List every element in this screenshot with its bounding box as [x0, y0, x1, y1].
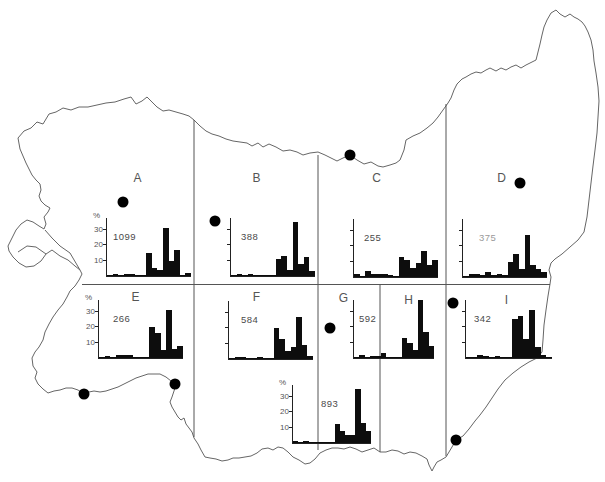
site-dot: [515, 178, 526, 189]
site-dot: [345, 150, 356, 161]
y-axis-tick: [289, 427, 293, 428]
y-axis-tick: [459, 245, 463, 246]
histogram-C: 255: [353, 219, 438, 278]
y-axis-tick: [227, 260, 231, 261]
y-axis-tick: [459, 230, 463, 231]
y-axis-tick-label: 30: [80, 307, 95, 316]
y-axis-tick: [289, 396, 293, 397]
histogram-bars: [229, 301, 313, 359]
histogram-bars: [293, 385, 371, 443]
y-axis-tick: [95, 326, 99, 327]
histogram-bar: [432, 260, 438, 277]
histogram-bar: [307, 356, 313, 359]
histogram-bar: [546, 357, 552, 358]
histogram-bar: [174, 250, 180, 276]
y-axis-tick-label: 10: [274, 423, 289, 432]
histogram-G: 102030%893: [292, 385, 371, 444]
region-label-C: C: [372, 171, 382, 185]
region-label-A: A: [133, 171, 142, 185]
site-dot: [118, 197, 129, 208]
y-axis-tick-label: 10: [80, 338, 95, 347]
histogram-D: 375: [462, 219, 547, 278]
region-label-D: D: [497, 171, 507, 185]
sample-count: 388: [241, 231, 258, 242]
histogram-bar: [185, 273, 191, 276]
y-axis-tick: [227, 229, 231, 230]
site-dot: [170, 379, 181, 390]
histogram-B: 388: [230, 218, 315, 277]
sample-count: 592: [359, 313, 376, 324]
y-axis-tick: [462, 311, 466, 312]
y-axis-tick: [459, 261, 463, 262]
y-axis-tick-label: 20: [88, 240, 103, 249]
region-label-B: B: [252, 171, 261, 185]
y-axis-tick: [350, 245, 354, 246]
histogram-bars: [231, 218, 315, 276]
y-axis-percent-label: %: [85, 293, 92, 302]
y-axis-tick: [289, 411, 293, 412]
histogram-bar: [309, 271, 315, 276]
y-axis-tick: [350, 261, 354, 262]
y-axis-tick-label: 30: [274, 392, 289, 401]
sample-count: 342: [474, 313, 491, 324]
y-axis-tick: [350, 342, 354, 343]
y-axis-tick: [103, 260, 107, 261]
y-axis-tick-label: 30: [88, 225, 103, 234]
histogram-A: 102030%1099: [106, 218, 191, 277]
site-dot: [325, 323, 336, 334]
y-axis-tick-label: 20: [80, 322, 95, 331]
y-axis-tick: [225, 327, 229, 328]
sample-count: 255: [364, 232, 381, 243]
y-axis-tick: [227, 244, 231, 245]
sample-count: 375: [479, 232, 496, 243]
y-axis-tick: [350, 230, 354, 231]
histogram-bars: [354, 219, 438, 277]
y-axis-tick: [95, 311, 99, 312]
y-axis-tick-label: 20: [274, 407, 289, 416]
y-axis-percent-label: %: [279, 378, 286, 387]
site-dot: [448, 298, 459, 309]
sample-count: 266: [113, 313, 130, 324]
histogram-I: 342: [465, 300, 552, 359]
histogram-bars: [99, 300, 183, 358]
map-border-detail: [45, 230, 80, 270]
y-axis-tick: [225, 312, 229, 313]
histogram-bars: [466, 300, 552, 358]
histogram-bars: [107, 218, 191, 276]
region-label-G: G: [339, 291, 349, 305]
histogram-H: 592: [353, 300, 434, 359]
y-axis-tick: [462, 342, 466, 343]
figure: ABCDEFGHI 102030%1099388255375102030%266…: [0, 0, 605, 482]
map-border-detail: [18, 246, 46, 254]
histogram-bar: [177, 346, 183, 358]
y-axis-tick: [95, 342, 99, 343]
y-axis-tick-label: 10: [88, 256, 103, 265]
y-axis-tick: [225, 343, 229, 344]
site-dot: [451, 435, 462, 446]
histogram-F: 584: [228, 301, 313, 360]
histogram-bar: [541, 272, 547, 277]
sample-count: 584: [241, 314, 258, 325]
histogram-bars: [463, 219, 547, 277]
sample-count: 1099: [113, 231, 136, 242]
y-axis-tick: [103, 244, 107, 245]
site-dot: [79, 389, 90, 400]
y-axis-tick: [103, 229, 107, 230]
sample-count: 893: [321, 398, 338, 409]
histogram-bars: [354, 300, 434, 358]
y-axis-tick: [350, 311, 354, 312]
y-axis-tick: [462, 326, 466, 327]
histogram-bar: [429, 346, 434, 358]
y-axis-percent-label: %: [93, 211, 100, 220]
histogram-E: 102030%266: [98, 300, 183, 359]
site-dot: [210, 216, 221, 227]
histogram-bar: [366, 431, 371, 443]
y-axis-tick: [350, 326, 354, 327]
